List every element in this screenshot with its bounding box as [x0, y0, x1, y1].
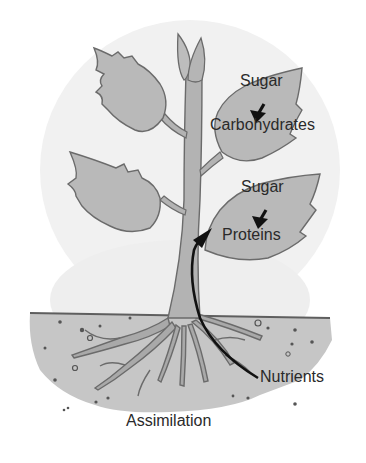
label-nutrients: Nutrients — [260, 369, 324, 385]
caption-assimilation: Assimilation — [126, 413, 211, 429]
label-carbohydrates: Carbohydrates — [210, 117, 315, 133]
plant-illustration — [0, 0, 366, 463]
assimilation-diagram: Sugar Carbohydrates Sugar Proteins Nutri… — [0, 0, 366, 463]
label-sugar-upper: Sugar — [240, 73, 283, 89]
label-proteins: Proteins — [222, 227, 281, 243]
label-sugar-lower: Sugar — [241, 179, 284, 195]
